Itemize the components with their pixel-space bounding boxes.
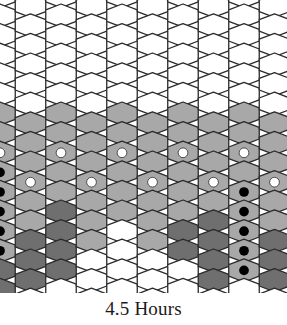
filled-circle-marker-icon (239, 187, 249, 197)
open-circle-marker-icon (270, 177, 280, 187)
hex-lattice-figure: 4.5 Hours (0, 0, 287, 325)
open-circle-marker-icon (26, 177, 36, 187)
filled-circle-marker-icon (239, 246, 249, 256)
open-circle-marker-icon (117, 148, 127, 158)
open-circle-marker-icon (178, 148, 188, 158)
open-circle-marker-icon (56, 148, 66, 158)
figure-caption: 4.5 Hours (0, 293, 287, 325)
hexagon-grid (0, 0, 287, 293)
filled-circle-marker-icon (239, 266, 249, 276)
filled-circle-marker-icon (239, 226, 249, 236)
open-circle-marker-icon (87, 177, 97, 187)
open-circle-marker-icon (239, 148, 249, 158)
open-circle-marker-icon (209, 177, 219, 187)
open-circle-marker-icon (148, 177, 158, 187)
filled-circle-marker-icon (239, 207, 249, 217)
